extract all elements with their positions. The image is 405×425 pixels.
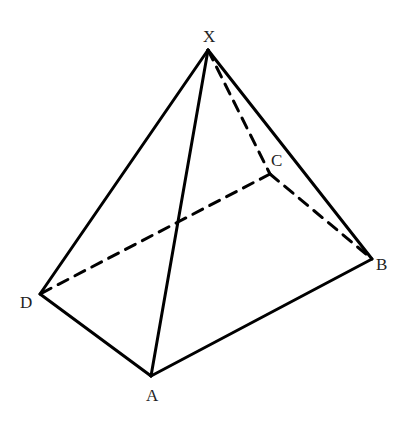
pyramid-svg: X C B D A <box>0 0 405 425</box>
edge-cd-hidden <box>40 174 270 294</box>
edge-da <box>40 294 151 376</box>
vertex-label-x: X <box>203 27 215 46</box>
edge-xc-hidden <box>208 50 270 174</box>
pyramid-diagram: X C B D A <box>0 0 405 425</box>
vertex-label-c: C <box>271 151 282 170</box>
edge-xb <box>208 50 372 259</box>
vertex-label-a: A <box>146 386 159 405</box>
vertex-label-d: D <box>20 293 32 312</box>
edge-ab <box>151 259 372 376</box>
edge-xa <box>151 50 208 376</box>
edges <box>40 50 372 376</box>
edge-cb-hidden <box>270 174 372 259</box>
vertex-label-b: B <box>376 255 387 274</box>
edge-xd <box>40 50 208 294</box>
